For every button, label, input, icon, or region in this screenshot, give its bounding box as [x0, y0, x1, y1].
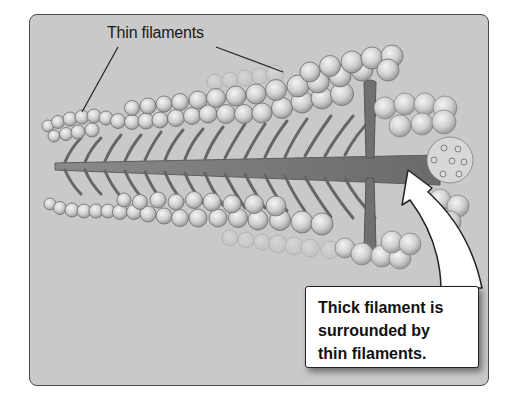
- callout-arrow: [402, 170, 482, 288]
- thin-filament-bottom: [44, 192, 333, 236]
- thick-filament-cross-section: [427, 137, 473, 183]
- callout-line-2: surrounded by: [318, 319, 478, 342]
- callout-line-1: Thick filament is: [318, 296, 478, 319]
- thick-filament-callout: Thick filament is surrounded by thin fil…: [305, 286, 479, 368]
- thin-filament-right-upper: [374, 93, 457, 137]
- thin-filaments-label: Thin filaments: [107, 24, 204, 42]
- callout-line-3: thin filaments.: [318, 342, 478, 365]
